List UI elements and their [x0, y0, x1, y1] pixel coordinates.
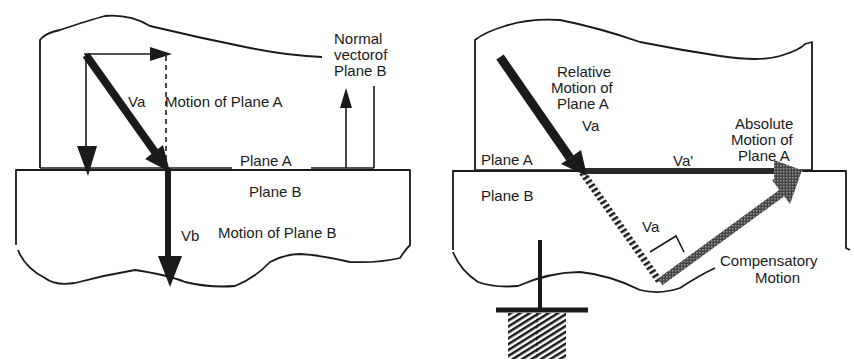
relative-motion-label-line2: Motion of	[551, 79, 614, 96]
plane-b-outline-left	[16, 170, 410, 287]
compensatory-motion-label-line2: Motion	[755, 269, 800, 286]
right-angle-marker-icon	[650, 236, 684, 252]
relative-motion-label-line1: Relative	[557, 63, 611, 80]
right-plane-a-label: Plane A	[481, 151, 533, 168]
vb-arrowhead-icon	[158, 256, 182, 287]
absolute-motion-label-line3: Plane A	[738, 147, 790, 164]
normal-vector-label-line2: vectorof	[334, 46, 388, 63]
right-panel: Relative Motion of Plane A Va Absolute M…	[453, 20, 850, 359]
motion-diagram: Va Motion of Plane A Normal vectorof Pla…	[0, 0, 854, 362]
ground-hatch-icon-2	[536, 313, 566, 359]
vb-label: Vb	[181, 227, 199, 244]
right-va-label: Va	[582, 117, 600, 134]
motion-plane-b-label: Motion of Plane B	[218, 224, 336, 241]
left-plane-b-label: Plane B	[249, 183, 302, 200]
vertical-component-arrowhead-icon	[77, 146, 97, 176]
left-panel: Va Motion of Plane A Normal vectorof Pla…	[16, 16, 410, 287]
left-plane-a-label: Plane A	[240, 152, 292, 169]
normal-vector-arrowhead-icon	[340, 88, 352, 108]
plane-a-outline-left	[40, 16, 322, 168]
va-perpendicular-label: Va	[642, 218, 660, 235]
va-prime-label: Va'	[673, 152, 693, 169]
left-motion-plane-a-label: Motion of Plane A	[165, 93, 283, 110]
compensatory-motion-label-line1: Compensatory	[720, 252, 818, 269]
normal-vector-label-line3: Plane B	[334, 62, 387, 79]
horizontal-component-arrowhead-icon	[150, 47, 172, 61]
left-va-label: Va	[128, 93, 146, 110]
absolute-motion-label-line1: Absolute	[735, 115, 793, 132]
ground-hatch-icon	[508, 313, 538, 359]
right-plane-b-label: Plane B	[481, 187, 534, 204]
absolute-motion-label-line2: Motion of	[731, 131, 794, 148]
relative-motion-label-line3: Plane A	[557, 95, 609, 112]
normal-vector-label-line1: Normal	[334, 30, 382, 47]
